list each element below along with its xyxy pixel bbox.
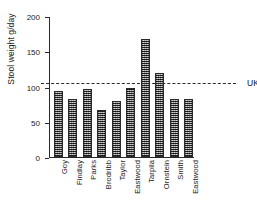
bar — [54, 91, 63, 157]
bar-slot — [170, 16, 179, 157]
bar-slot — [97, 16, 106, 157]
x-axis-label: Smith — [176, 160, 185, 180]
bar — [141, 39, 150, 157]
bar — [184, 99, 193, 157]
bar-slot — [155, 16, 164, 157]
x-axis-label: Eastwood — [191, 160, 200, 194]
x-axis-label: Findlay — [75, 160, 84, 185]
bar-chart: Stool weight g/day 050100150200 UK media… — [0, 0, 257, 207]
x-axis-label: Tarpila — [147, 160, 156, 183]
x-axis-label: Ornstein — [162, 160, 171, 189]
bar — [68, 99, 77, 158]
x-axis-label: Eastwood — [133, 160, 142, 194]
bar-slot — [126, 16, 135, 157]
x-axis-labels: GoyFindlayParksBrodribbTaylorEastwoodTar… — [49, 160, 194, 207]
bar-series — [49, 17, 194, 157]
bar — [170, 99, 179, 157]
bar — [155, 73, 164, 157]
bar-slot — [68, 16, 77, 157]
x-axis-label: Taylor — [118, 160, 127, 181]
y-tick: 0 — [45, 158, 49, 159]
bar-slot — [83, 16, 92, 157]
bar — [112, 101, 121, 157]
uk-median-line — [41, 83, 236, 84]
x-axis-label: Goy — [60, 160, 69, 174]
bar — [126, 88, 135, 157]
bar — [83, 89, 92, 157]
uk-median-label: UK median — [247, 78, 257, 88]
x-axis-label: Parks — [89, 160, 98, 180]
plot-area: 050100150200 UK median — [49, 17, 194, 158]
y-tick-label: 50 — [31, 118, 40, 127]
y-tick-label: 150 — [27, 48, 40, 57]
x-axis-line — [49, 157, 194, 158]
y-tick-label: 0 — [36, 154, 40, 163]
bar-slot — [112, 16, 121, 157]
bar-slot — [54, 16, 63, 157]
y-tick-label: 200 — [27, 13, 40, 22]
x-axis-label: Brodribb — [104, 160, 113, 189]
y-tick-label: 100 — [27, 83, 40, 92]
bar — [97, 110, 106, 157]
bar-slot — [141, 16, 150, 157]
y-axis-title: Stool weight g/day — [6, 0, 16, 114]
bar-slot — [184, 16, 193, 157]
